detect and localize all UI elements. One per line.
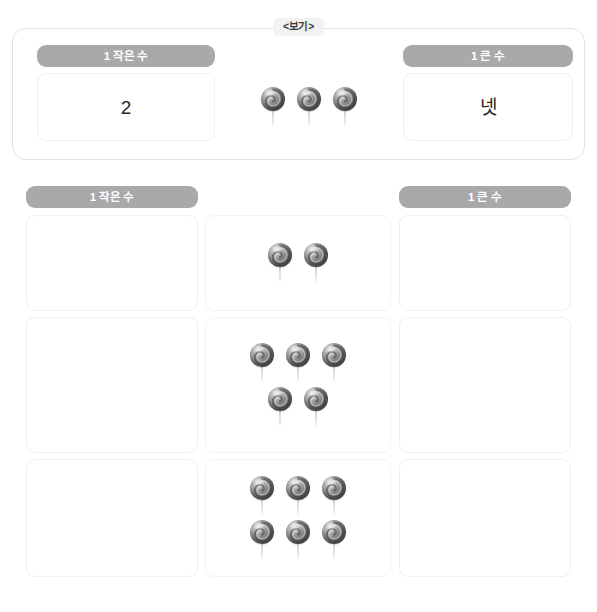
candy-cell bbox=[205, 317, 391, 453]
lollipop-gloss bbox=[273, 390, 281, 396]
answer-cell-one-less[interactable] bbox=[26, 459, 198, 577]
lollipop-icon bbox=[321, 476, 347, 516]
lollipop-icon bbox=[249, 520, 275, 560]
answer-cell-one-more[interactable] bbox=[399, 317, 571, 453]
lollipop-head bbox=[250, 476, 274, 500]
lollipop-gloss bbox=[291, 479, 299, 485]
example-value-one-less: 2 bbox=[121, 98, 131, 117]
lollipop-icon bbox=[267, 243, 293, 283]
candy-group bbox=[206, 243, 390, 283]
lollipop-gloss bbox=[291, 523, 299, 529]
example-value-one-more: 넷 bbox=[480, 98, 497, 117]
lollipop-head bbox=[286, 476, 310, 500]
lollipop-icon bbox=[332, 87, 358, 127]
candy-cell bbox=[205, 459, 391, 577]
question-row bbox=[0, 215, 597, 311]
lollipop-head bbox=[322, 520, 346, 544]
lollipop-gloss bbox=[338, 90, 346, 96]
lollipop-icon bbox=[285, 343, 311, 383]
example-candy-group bbox=[226, 87, 392, 127]
lollipop-head bbox=[250, 343, 274, 367]
example-box: <보기> 1 작은 수 1 큰 수 2 넷 bbox=[12, 28, 585, 160]
lollipop-gloss bbox=[291, 346, 299, 352]
example-cell-candies bbox=[225, 73, 393, 141]
candy-row bbox=[267, 387, 329, 427]
lollipop-head bbox=[250, 520, 274, 544]
lollipop-icon bbox=[267, 387, 293, 427]
lollipop-head bbox=[322, 343, 346, 367]
lollipop-gloss bbox=[309, 390, 317, 396]
answer-cell-one-less[interactable] bbox=[26, 215, 198, 311]
answer-cell-one-less[interactable] bbox=[26, 317, 198, 453]
lollipop-head bbox=[333, 87, 357, 111]
lollipop-icon bbox=[321, 343, 347, 383]
lollipop-icon bbox=[285, 476, 311, 516]
lollipop-head bbox=[322, 476, 346, 500]
example-header-one-less: 1 작은 수 bbox=[37, 45, 215, 67]
candy-group bbox=[206, 476, 390, 560]
lollipop-head bbox=[286, 520, 310, 544]
lollipop-gloss bbox=[255, 523, 263, 529]
candy-row bbox=[249, 343, 347, 383]
lollipop-icon bbox=[285, 520, 311, 560]
lollipop-gloss bbox=[309, 246, 317, 252]
lollipop-gloss bbox=[327, 346, 335, 352]
lollipop-icon bbox=[321, 520, 347, 560]
example-tab-label: <보기> bbox=[273, 18, 324, 36]
example-header-one-more: 1 큰 수 bbox=[403, 45, 573, 67]
lollipop-head bbox=[304, 243, 328, 267]
lollipop-head bbox=[304, 387, 328, 411]
lollipop-head bbox=[268, 387, 292, 411]
lollipop-icon bbox=[303, 243, 329, 283]
lollipop-gloss bbox=[327, 523, 335, 529]
question-row bbox=[0, 317, 597, 453]
candy-row bbox=[249, 476, 347, 516]
lollipop-gloss bbox=[255, 479, 263, 485]
candy-row bbox=[249, 520, 347, 560]
example-cell-one-more: 넷 bbox=[403, 73, 573, 141]
lollipop-head bbox=[261, 87, 285, 111]
question-header-one-less: 1 작은 수 bbox=[26, 186, 198, 208]
lollipop-head bbox=[268, 243, 292, 267]
lollipop-icon bbox=[249, 476, 275, 516]
question-row bbox=[0, 459, 597, 577]
answer-cell-one-more[interactable] bbox=[399, 459, 571, 577]
lollipop-gloss bbox=[302, 90, 310, 96]
candy-cell bbox=[205, 215, 391, 311]
answer-cell-one-more[interactable] bbox=[399, 215, 571, 311]
candy-row bbox=[267, 243, 329, 283]
lollipop-gloss bbox=[273, 246, 281, 252]
lollipop-gloss bbox=[266, 90, 274, 96]
example-cell-one-less: 2 bbox=[37, 73, 215, 141]
candy-row bbox=[260, 87, 358, 127]
lollipop-icon bbox=[303, 387, 329, 427]
lollipop-icon bbox=[249, 343, 275, 383]
candy-group bbox=[206, 343, 390, 427]
lollipop-icon bbox=[260, 87, 286, 127]
lollipop-head bbox=[286, 343, 310, 367]
lollipop-icon bbox=[296, 87, 322, 127]
lollipop-head bbox=[297, 87, 321, 111]
lollipop-gloss bbox=[255, 346, 263, 352]
lollipop-gloss bbox=[327, 479, 335, 485]
question-header-one-more: 1 큰 수 bbox=[399, 186, 571, 208]
